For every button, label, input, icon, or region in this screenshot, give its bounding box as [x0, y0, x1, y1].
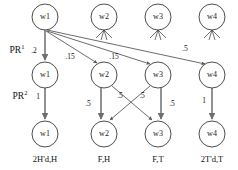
edge-weight-e6: .5 [85, 99, 91, 108]
caption-r2c2: F,T [152, 154, 164, 164]
whisker-r0c1 [96, 30, 112, 40]
edge-weight-e7: .5 [117, 91, 123, 100]
node-r1c2[interactable]: w3 [145, 62, 171, 88]
row-label-pr2: PR2 [13, 89, 28, 101]
row-label-pr2-base: PR [13, 91, 25, 101]
node-label: w3 [153, 129, 163, 138]
node-row-1: w1 w2 w3 w4 [32, 62, 225, 88]
edge-weight-e5: 1 [36, 92, 40, 101]
node-r1c3[interactable]: w4 [199, 62, 225, 88]
node-row-0: w1 w2 w3 w4 [32, 4, 225, 30]
row-label-pr1-exponent: 1 [21, 43, 24, 50]
node-r0c0[interactable]: w1 [32, 4, 58, 30]
captions: 2H'd,H F,H F,T 2T'd,T [33, 154, 224, 164]
edge-weight-e2: .15 [65, 52, 75, 61]
node-r2c1[interactable]: w2 [91, 121, 117, 147]
whisker-r0c2 [150, 30, 166, 40]
edge-weight-e3: .15 [109, 52, 119, 61]
whiskers-group [96, 30, 220, 40]
node-label: w4 [207, 12, 217, 21]
edge-weight-e8: .5 [139, 91, 145, 100]
node-r2c2[interactable]: w3 [145, 121, 171, 147]
node-label: w3 [153, 70, 163, 79]
row-label-pr1-base: PR [10, 45, 22, 55]
graph-svg: w1 w2 w3 w4 w1 w2 [0, 0, 238, 170]
node-r1c0[interactable]: w1 [32, 62, 58, 88]
node-row-2: w1 w2 w3 w4 [32, 121, 225, 147]
caption-r2c0: 2H'd,H [33, 154, 57, 164]
edge-weight-e4: .5 [182, 44, 188, 53]
node-r2c3[interactable]: w4 [199, 121, 225, 147]
node-label: w4 [207, 70, 217, 79]
caption-r2c3: 2T'd,T [201, 154, 224, 164]
caption-r2c1: F,H [98, 154, 110, 164]
row-labels: PR1 PR2 [10, 43, 28, 101]
node-label: w1 [40, 12, 50, 21]
row-label-pr2-exponent: 2 [24, 89, 27, 96]
node-label: w2 [99, 12, 109, 21]
node-label: w2 [99, 129, 109, 138]
edges-layer-2 [45, 86, 212, 120]
node-r0c1[interactable]: w2 [91, 4, 117, 30]
figure-canvas: w1 w2 w3 w4 w1 w2 [0, 0, 238, 170]
node-label: w2 [99, 70, 109, 79]
row-label-pr1: PR1 [10, 43, 25, 55]
node-r0c2[interactable]: w3 [145, 4, 171, 30]
node-r1c1[interactable]: w2 [91, 62, 117, 88]
node-label: w1 [40, 129, 50, 138]
node-r2c0[interactable]: w1 [32, 121, 58, 147]
edge-weight-e9: .5 [169, 99, 175, 108]
whisker-r0c3 [204, 30, 220, 40]
edge-weight-e1: .2 [31, 46, 37, 55]
node-label: w4 [207, 129, 217, 138]
edge-weight-e10: 1 [202, 96, 206, 105]
node-r0c3[interactable]: w4 [199, 4, 225, 30]
node-label: w1 [40, 70, 50, 79]
node-label: w3 [153, 12, 163, 21]
